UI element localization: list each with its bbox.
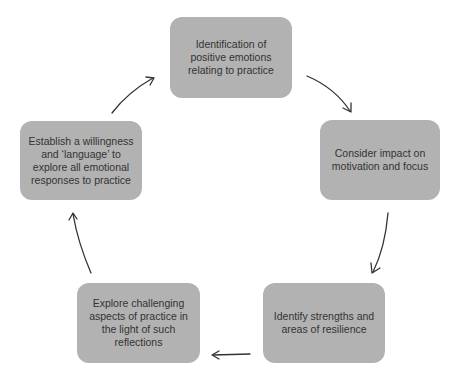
arrow-1-to-2-icon [307,76,351,112]
arrow-3-to-4-icon [212,351,250,359]
step-2-consider-impact: Consider impact on motivation and focus [320,120,440,200]
step-1-label: Identification of positive emotions rela… [188,38,274,77]
cycle-diagram: Identification of positive emotions rela… [0,0,460,380]
step-5-label: Establish a willingness and ‘language’ t… [28,135,133,187]
step-4-label: Explore challenging aspects of practice … [89,297,188,349]
arrow-2-to-3-icon [371,213,388,273]
step-3-identify-strengths: Identify strengths and areas of resilien… [263,283,385,363]
step-4-explore-challenging-aspects: Explore challenging aspects of practice … [77,283,200,363]
step-1-identify-positive-emotions: Identification of positive emotions rela… [170,17,292,98]
step-2-label: Consider impact on motivation and focus [332,147,428,173]
step-5-establish-willingness: Establish a willingness and ‘language’ t… [20,121,142,200]
arrow-5-to-1-icon [112,77,154,113]
step-3-label: Identify strengths and areas of resilien… [274,310,374,336]
arrow-4-to-5-icon [69,213,91,273]
